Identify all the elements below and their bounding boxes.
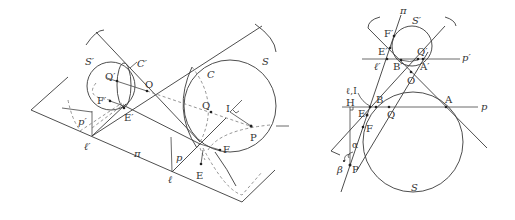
point-e-prime <box>123 107 126 110</box>
line-p-vertical <box>171 137 172 172</box>
label-s-prime: S′ <box>85 56 95 67</box>
point-l-on-p <box>369 106 372 109</box>
point-e <box>366 114 369 117</box>
label-pi: π <box>399 5 407 16</box>
line-p-diag <box>172 118 226 172</box>
arc-b-prime <box>400 60 418 62</box>
arrow-l-i <box>358 93 370 106</box>
label-p-prime: p′ <box>78 116 87 127</box>
cone-arc-left <box>368 17 380 28</box>
point-b <box>375 106 378 109</box>
axis-dashed <box>147 91 253 127</box>
conic-right-dashed-upper <box>208 125 270 150</box>
arc-alpha <box>348 152 353 158</box>
plane-pi-outline <box>31 77 275 202</box>
point-p <box>250 125 253 128</box>
point-l-prime <box>386 58 389 61</box>
plane-inner-line <box>62 108 92 112</box>
label-a-prime: A′ <box>419 61 430 72</box>
label-a: A <box>444 94 453 105</box>
line-i-p <box>230 112 251 126</box>
line-e-prime-to-e <box>125 106 200 144</box>
fold-line <box>331 151 340 155</box>
point-f <box>219 149 222 152</box>
label-p: p <box>481 101 488 112</box>
line-i-up <box>230 100 242 112</box>
point-q-prime <box>116 80 119 83</box>
point-o <box>410 71 413 74</box>
label-e-prime: E′ <box>378 46 388 57</box>
label-e-prime: E′ <box>124 112 134 123</box>
segment-f <box>200 144 220 150</box>
label-s: S <box>262 56 269 67</box>
right-angle-mark <box>233 110 239 113</box>
dash-p-prime-1 <box>92 104 124 128</box>
label-f-prime: F′ <box>97 95 107 106</box>
label-c-prime: C′ <box>137 58 148 69</box>
label-s-prime: S′ <box>412 15 422 26</box>
label-q-prime: Q′ <box>105 71 116 82</box>
label-p-point: P <box>352 164 359 175</box>
c-prime-leader <box>130 62 137 68</box>
label-c: C <box>207 69 215 80</box>
conic-right-dashed <box>203 148 262 195</box>
point-a <box>445 106 448 109</box>
sphere-s <box>184 60 276 152</box>
right-figure: π S′ F′ E′ Q′ p′ ℓ′ B′ A′ O ℓ,I H B A p … <box>331 5 488 193</box>
label-beta: β <box>336 164 343 175</box>
label-l: ℓ <box>168 174 172 185</box>
point-f <box>362 126 365 129</box>
label-e: E <box>196 170 203 181</box>
label-i: I <box>226 103 230 114</box>
left-figure: S′ C′ Q′ O F′ E′ p′ ℓ′ π p ℓ C S Q I P F… <box>31 24 289 202</box>
label-pi: π <box>133 148 141 159</box>
point-a-prime <box>422 58 425 61</box>
label-q: Q <box>202 100 210 111</box>
label-e: E <box>358 108 365 119</box>
point-f-prime <box>109 100 112 103</box>
point-o <box>146 90 149 93</box>
label-alpha: α <box>352 140 358 150</box>
label-p: p <box>176 152 183 163</box>
label-l-prime: ℓ′ <box>84 141 91 152</box>
label-p-point: P <box>250 132 257 143</box>
point-e <box>200 163 203 166</box>
label-l-prime: ℓ′ <box>374 61 381 72</box>
cone-arc-right <box>445 17 456 26</box>
label-o: O <box>407 75 415 86</box>
label-q-prime: Q′ <box>417 46 428 57</box>
point-beta <box>343 160 345 162</box>
point-e-prime <box>389 47 392 50</box>
label-l-i: ℓ,I <box>346 86 357 96</box>
label-q: Q <box>387 109 395 120</box>
label-f: F <box>366 123 373 134</box>
segment-e <box>201 150 203 164</box>
diagram-canvas: S′ C′ Q′ O F′ E′ p′ ℓ′ π p ℓ C S Q I P F… <box>0 0 515 220</box>
arc-beta <box>345 154 350 161</box>
label-b-prime: B′ <box>393 61 403 72</box>
point-q <box>210 111 213 114</box>
line-p-prime-diag <box>92 104 126 136</box>
point-q <box>388 106 391 109</box>
label-b: B <box>376 94 383 105</box>
label-f-prime: F′ <box>384 28 394 39</box>
label-h: H <box>346 97 355 108</box>
point-q-prime <box>417 58 420 61</box>
label-p-prime: p′ <box>462 52 471 63</box>
label-s: S <box>411 182 418 193</box>
conic-right-solid <box>215 152 236 186</box>
label-f: F <box>223 144 230 155</box>
label-o: O <box>145 79 153 90</box>
